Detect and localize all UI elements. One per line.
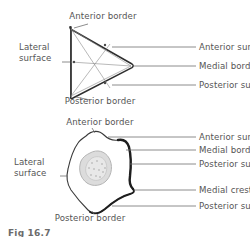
bottom-posterior-surface-label-1: Posterior surface: [199, 159, 250, 170]
bottom-top-leader: [92, 128, 95, 133]
bottom-posterior-surface-label-2: Posterior surface: [199, 201, 250, 212]
triangle-internal-lines: [71, 29, 131, 96]
top-diagram-group: [62, 24, 196, 100]
top-leader-lines: [112, 47, 196, 85]
bottom-lateral-surface-label-line2: surface: [14, 168, 46, 179]
medial-border-thick-edge: [118, 140, 133, 189]
top-posterior-surface-label: Posterior surface: [199, 80, 250, 91]
bone-outline: [67, 131, 134, 213]
top-medial-border-label: Medial border: [199, 61, 250, 72]
triangle-interior-dots: [73, 44, 106, 84]
bottom-anterior-surface-label: Anterior surface: [199, 132, 250, 143]
top-lateral-surface-label-line1: Lateral: [19, 42, 50, 53]
triangle-outline: [70, 27, 133, 99]
top-anterior-surface-label: Anterior surface: [199, 42, 250, 53]
bottom-medial-border-label: Medial border: [199, 145, 250, 156]
medullary-cavity: [80, 151, 112, 185]
posterior-edge-thick: [90, 189, 134, 213]
anatomy-figure: Anterior border Lateral surface Anterior…: [0, 0, 250, 237]
top-top-leader: [74, 24, 88, 28]
top-posterior-border-label: Posterior border: [45, 96, 155, 107]
medullary-inner-core: [86, 157, 107, 181]
bottom-lateral-surface-label-line1: Lateral: [14, 157, 45, 168]
bottom-leader-lines: [108, 137, 196, 206]
top-lateral-surface-label-line2: surface: [19, 53, 51, 64]
trabecular-speckles: [88, 160, 105, 177]
bottom-anterior-border-label: Anterior border: [45, 117, 155, 128]
top-anterior-border-label: Anterior border: [48, 11, 158, 22]
figure-caption: Fig 16.7: [8, 228, 51, 237]
bottom-diagram-group: [60, 128, 196, 214]
bottom-posterior-border-label: Posterior border: [35, 213, 145, 224]
bottom-medial-crest-label: Medial crest: [199, 185, 250, 196]
